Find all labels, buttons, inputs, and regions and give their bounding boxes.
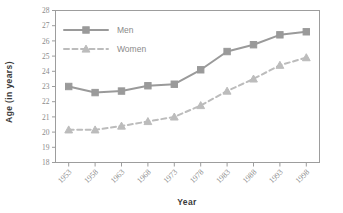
x-tick-label: 1978 (188, 168, 206, 186)
data-point-men (224, 48, 230, 54)
data-point-men (92, 89, 98, 95)
x-tick-label: 1968 (135, 168, 153, 186)
x-tick-label: 1993 (267, 168, 285, 186)
data-point-women (223, 87, 231, 94)
legend-label-women: Women (117, 44, 146, 54)
x-tick-label: 1998 (294, 168, 312, 186)
x-tick-label: 1963 (109, 168, 127, 186)
y-tick-label: 21 (42, 113, 50, 122)
line-chart: 1819202122232425262728 19531958196319681… (0, 0, 343, 213)
y-tick-label: 24 (42, 67, 50, 76)
data-point-women (302, 54, 310, 61)
x-tick-label: 1953 (56, 168, 74, 186)
x-axis-title: Year (177, 197, 197, 207)
y-tick-label: 22 (42, 97, 50, 106)
y-tick-label: 26 (42, 37, 50, 46)
series-line-men (69, 32, 307, 93)
chart-legend: MenWomen (64, 25, 146, 54)
series-layer (65, 29, 310, 133)
x-axis: 1953195819631968197319781983198819931998 (56, 163, 311, 186)
chart-canvas: 1819202122232425262728 19531958196319681… (0, 0, 343, 213)
data-point-women (276, 61, 284, 68)
series-line-women (69, 58, 307, 130)
x-tick-label: 1983 (214, 168, 232, 186)
data-point-men (171, 81, 177, 87)
data-point-men (198, 67, 204, 73)
y-axis: 1819202122232425262728 (42, 6, 56, 167)
y-tick-label: 25 (42, 52, 50, 61)
x-tick-label: 1988 (241, 168, 259, 186)
y-tick-label: 20 (42, 128, 50, 137)
y-tick-label: 19 (42, 143, 50, 152)
data-point-men (277, 32, 283, 38)
legend-label-men: Men (117, 25, 134, 35)
data-point-men (66, 83, 72, 89)
legend-marker-men (83, 27, 89, 33)
y-tick-label: 27 (42, 21, 50, 30)
y-axis-title: Age (in years) (4, 61, 14, 123)
x-tick-label: 1973 (162, 168, 180, 186)
y-tick-label: 23 (42, 82, 50, 91)
x-tick-label: 1958 (82, 168, 100, 186)
data-point-men (145, 83, 151, 89)
y-tick-label: 28 (42, 6, 50, 15)
data-point-men (118, 88, 124, 94)
data-point-men (250, 42, 256, 48)
data-point-men (303, 29, 309, 35)
y-tick-label: 18 (42, 158, 50, 167)
